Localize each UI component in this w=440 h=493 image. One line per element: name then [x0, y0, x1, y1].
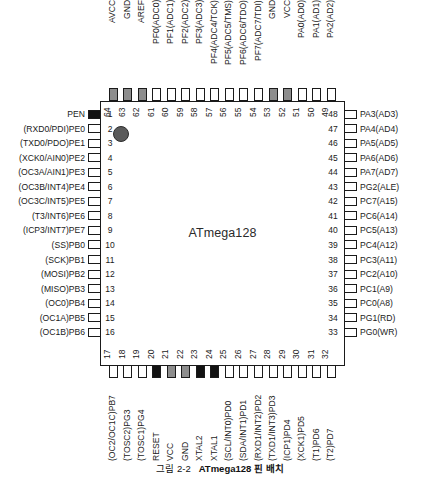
pin-label-15: (OC1A)PB5 — [40, 313, 85, 322]
pin-number-14: 14 — [103, 299, 117, 308]
pin-label-10: (SS)PB0 — [52, 241, 85, 250]
pin-label-16: (OC1B)PB6 — [40, 328, 85, 337]
pin-box-62 — [138, 88, 147, 101]
pin-box-21 — [167, 365, 176, 378]
pin-label-4: (XCK0/AIN0)PE2 — [19, 153, 85, 162]
figure-caption: 그림 2-2 ATmega128 핀 배치 — [0, 461, 440, 475]
pin-number-44: 44 — [326, 168, 340, 177]
pin-label-57: PF4(ADC4/TCK) — [210, 0, 219, 85]
pin-box-31 — [312, 365, 321, 378]
pin-box-34 — [344, 313, 357, 322]
pin-label-50: PA1(AD1) — [312, 0, 321, 85]
pin-label-21: VCC — [166, 381, 175, 461]
pin-box-60 — [167, 88, 176, 101]
pin-number-9: 9 — [103, 226, 117, 235]
pin-label-32: (T2)PD7 — [326, 381, 335, 461]
pinout-diagram: ATmega128 64AVCC63GND62AREF61PF0(ADC0)60… — [0, 0, 440, 493]
pin-box-58 — [196, 88, 205, 101]
pin-label-42: PC7(A15) — [360, 197, 398, 206]
pin-box-46 — [344, 139, 357, 148]
pin-box-17 — [109, 365, 118, 378]
pin-label-54: PF7(ADC7/TDI) — [254, 0, 263, 85]
pin-number-42: 42 — [326, 197, 340, 206]
pin-box-41 — [344, 211, 357, 220]
pin-box-39 — [344, 240, 357, 249]
pin-box-11 — [88, 255, 101, 264]
pin-box-48 — [344, 110, 357, 119]
pin-box-23 — [196, 365, 205, 378]
pin-number-43: 43 — [326, 183, 340, 192]
pin-label-41: PC6(A14) — [360, 212, 398, 221]
pin-label-44: PA7(AD7) — [360, 168, 398, 177]
pin-label-43: PG2(ALE) — [360, 182, 399, 191]
pin-label-22: GND — [181, 381, 190, 461]
pin-label-11: (SCK)PB1 — [45, 255, 85, 264]
pin-number-5: 5 — [103, 168, 117, 177]
pin-box-22 — [181, 365, 190, 378]
pin-label-23: XTAL2 — [195, 381, 204, 461]
pin-box-54 — [254, 88, 263, 101]
pin-label-28: (TXD1/INT3)PD3 — [268, 381, 277, 461]
pin-label-58: PF3(ADC3) — [195, 0, 204, 85]
pin-label-52: VCC — [283, 0, 292, 85]
pin-number-36: 36 — [326, 285, 340, 294]
pin-label-46: PA5(AD5) — [360, 139, 398, 148]
pin-box-19 — [138, 365, 147, 378]
pin-box-9 — [88, 226, 101, 235]
pin-box-15 — [88, 313, 101, 322]
pin-label-37: PC2(A10) — [360, 270, 398, 279]
pin-number-13: 13 — [103, 285, 117, 294]
figure-title: ATmega128 핀 배치 — [199, 463, 284, 474]
pin-box-13 — [88, 284, 101, 293]
pin-number-32: 32 — [321, 346, 341, 362]
pin-label-5: (OC3A/AIN1)PE3 — [18, 168, 85, 177]
pin-box-7 — [88, 197, 101, 206]
pin-box-61 — [152, 88, 161, 101]
pin-label-30: (XCK1)PD5 — [297, 381, 306, 461]
pin-box-10 — [88, 240, 101, 249]
pin-box-43 — [344, 182, 357, 191]
pin-number-34: 34 — [326, 314, 340, 323]
pin-number-15: 15 — [103, 314, 117, 323]
pin-label-40: PC5(A13) — [360, 226, 398, 235]
pin-box-56 — [225, 88, 234, 101]
pin-box-33 — [344, 328, 357, 337]
pin-box-3 — [88, 139, 101, 148]
pin-box-28 — [269, 365, 278, 378]
pin-label-45: PA6(AD6) — [360, 153, 398, 162]
pin-label-35: PC0(A8) — [360, 299, 393, 308]
pin-label-56: PF5(ADC5/TMS) — [224, 0, 233, 85]
pin-box-29 — [283, 365, 292, 378]
pin-number-4: 4 — [103, 154, 117, 163]
pin-box-49 — [327, 88, 336, 101]
pin-box-26 — [239, 365, 248, 378]
pin-box-16 — [88, 328, 101, 337]
pin-number-16: 16 — [103, 328, 117, 337]
pin-box-38 — [344, 255, 357, 264]
pin-label-1: PEN — [67, 110, 85, 119]
pin-label-61: PF0(ADC0) — [152, 0, 161, 85]
pin-label-25: (SCL/INT0)PD0 — [224, 381, 233, 461]
pin-number-7: 7 — [103, 197, 117, 206]
pin-label-51: PA0(AD0) — [297, 0, 306, 85]
pin-box-45 — [344, 153, 357, 162]
pin-box-36 — [344, 284, 357, 293]
pin-label-31: (T1)PD6 — [312, 381, 321, 461]
pin-number-38: 38 — [326, 256, 340, 265]
pin-box-18 — [123, 365, 132, 378]
pin-number-10: 10 — [103, 241, 117, 250]
pin-label-39: PC4(A12) — [360, 241, 398, 250]
pin-box-53 — [269, 88, 278, 101]
pin-number-48: 48 — [326, 110, 340, 119]
pin-number-35: 35 — [326, 299, 340, 308]
pin-label-63: GND — [123, 0, 132, 85]
pin-box-37 — [344, 270, 357, 279]
figure-number: 그림 2-2 — [156, 463, 190, 474]
pin-box-57 — [210, 88, 219, 101]
pin-box-5 — [88, 168, 101, 177]
pin-box-2 — [88, 124, 101, 133]
pin-label-19: (TOSC1)PG4 — [137, 381, 146, 461]
pin-label-14: (OC0)PB4 — [45, 299, 85, 308]
pin-box-35 — [344, 299, 357, 308]
pin-number-40: 40 — [326, 226, 340, 235]
